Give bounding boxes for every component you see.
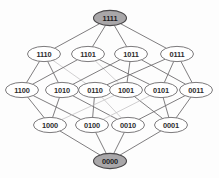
lattice-edge — [103, 96, 150, 120]
node-label: 0100 — [84, 121, 100, 130]
lattice-node-0011[interactable]: 0011 — [180, 82, 213, 97]
lattice-node-0000[interactable]: 0000 — [94, 153, 127, 168]
node-label: 0101 — [153, 86, 169, 95]
lattice-node-1110[interactable]: 1110 — [28, 46, 61, 61]
node-label: 1011 — [123, 50, 139, 59]
node-label: 1100 — [14, 86, 30, 95]
node-label: 0110 — [87, 86, 103, 95]
node-label: 0111 — [169, 50, 184, 59]
lattice-edge — [164, 61, 173, 82]
lattice-edge — [92, 25, 105, 46]
lattice-edge — [114, 132, 125, 153]
lattice-node-0101[interactable]: 0101 — [145, 82, 178, 97]
lattice-edge — [107, 59, 165, 85]
lattice-node-1111[interactable]: 1111 — [94, 10, 127, 25]
lattice-node-0111[interactable]: 0111 — [161, 46, 194, 61]
lattice-edge — [26, 61, 39, 82]
lattice-edge — [142, 60, 186, 84]
node-label: 1000 — [42, 121, 58, 130]
node-label: 0001 — [163, 121, 179, 130]
node-label: 1110 — [36, 50, 51, 59]
node-label: 0011 — [188, 86, 204, 95]
node-label: 0010 — [120, 121, 136, 130]
lattice-edge — [127, 62, 130, 83]
lattice-edge — [55, 24, 100, 48]
node-label: 0000 — [102, 157, 118, 166]
lattice-edge — [163, 98, 169, 118]
node-label: 1001 — [118, 86, 134, 95]
lattice-node-0100[interactable]: 0100 — [76, 117, 109, 132]
lattice-node-1100[interactable]: 1100 — [6, 82, 39, 97]
node-label: 1010 — [54, 86, 70, 95]
lattice-edge — [96, 132, 107, 153]
lattice-edge — [33, 96, 81, 120]
lattice-edge — [181, 61, 192, 82]
lattice-node-1000[interactable]: 1000 — [34, 117, 67, 132]
lattice-edge — [73, 60, 120, 85]
lattice-node-1101[interactable]: 1101 — [72, 46, 105, 61]
lattice-canvas: 1111111011011011011111001010011010010101… — [0, 0, 219, 178]
lattice-edge — [176, 97, 191, 118]
lattice-node-1010[interactable]: 1010 — [46, 82, 79, 97]
lattice-edge — [60, 131, 100, 155]
lattice-edge — [48, 61, 59, 82]
lattice-node-1001[interactable]: 1001 — [110, 82, 143, 97]
node-label: 1111 — [103, 14, 118, 23]
lattice-edge — [120, 131, 161, 155]
lattice-node-1011[interactable]: 1011 — [115, 46, 148, 61]
lattice-edge — [95, 61, 119, 83]
lattice-node-0110[interactable]: 0110 — [79, 82, 112, 97]
lattice-node-0001[interactable]: 0001 — [155, 117, 188, 132]
lattice-edge — [33, 60, 78, 84]
nodes-layer: 1111111011011011011111001010011010010101… — [6, 10, 213, 168]
lattice-diagram: 1111111011011011011111001010011010010101… — [0, 0, 219, 178]
lattice-edge — [134, 97, 162, 119]
lattice-edge — [114, 25, 126, 46]
lattice-edge — [121, 24, 167, 48]
lattice-edge — [62, 95, 115, 119]
lattice-edge — [53, 98, 60, 118]
node-label: 1101 — [80, 50, 96, 59]
lattice-node-0010[interactable]: 0010 — [112, 117, 145, 132]
